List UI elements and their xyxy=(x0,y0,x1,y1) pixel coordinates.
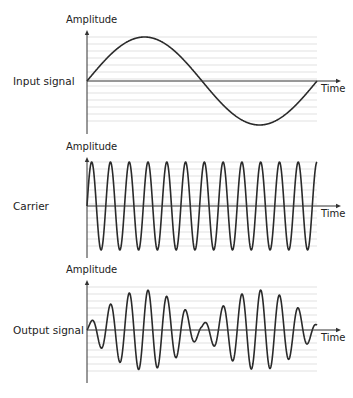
panel-carrier: AmplitudeTimeCarrier xyxy=(13,141,345,258)
am-modulation-diagram: AmplitudeTimeInput signalAmplitudeTimeCa… xyxy=(0,0,353,398)
y-axis-arrow-icon xyxy=(85,157,89,162)
x-axis-label: Time xyxy=(320,208,345,219)
y-axis-label: Amplitude xyxy=(66,264,117,275)
panel-label-carrier: Carrier xyxy=(13,200,50,212)
y-axis-label: Amplitude xyxy=(66,141,117,152)
panel-label-input: Input signal xyxy=(13,75,75,87)
y-axis-arrow-icon xyxy=(85,30,89,35)
x-axis-label: Time xyxy=(320,83,345,94)
x-axis-label: Time xyxy=(320,332,345,343)
panel-input: AmplitudeTimeInput signal xyxy=(13,14,345,134)
panel-output: AmplitudeTimeOutput signal xyxy=(13,264,345,383)
panel-label-output: Output signal xyxy=(13,324,84,336)
y-axis-arrow-icon xyxy=(85,280,89,285)
y-axis-label: Amplitude xyxy=(66,14,117,25)
grid-lines xyxy=(87,37,317,121)
